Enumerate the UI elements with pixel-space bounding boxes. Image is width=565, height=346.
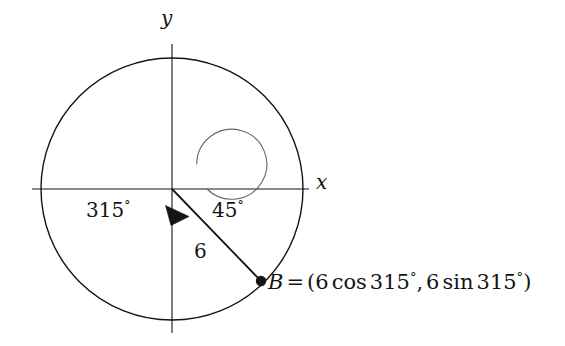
radius-length-label: 6 — [194, 241, 207, 261]
equals-sign: = — [283, 270, 307, 294]
y-coefficient: 6 — [423, 270, 439, 294]
degree-symbol-icon: ° — [237, 198, 243, 213]
y-angle-value: 315 — [474, 270, 517, 294]
arc-arrowhead — [166, 206, 190, 226]
degree-symbol-icon: ° — [124, 198, 130, 213]
close-paren: ) — [523, 270, 531, 294]
x-angle-value: 315 — [367, 270, 410, 294]
sin-function: sin — [439, 270, 473, 294]
angle-45-value: 45 — [212, 198, 237, 222]
x-coefficient: 6 — [315, 270, 328, 294]
angle-315-value: 315 — [86, 198, 124, 222]
x-axis-label: x — [316, 172, 327, 192]
math-figure: y x 315° 45° 6 B=(6cos315°,6sin315°) — [0, 0, 565, 346]
point-b-name: B — [268, 270, 283, 294]
point-b-label: B=(6cos315°,6sin315°) — [268, 271, 531, 293]
point-b-marker — [256, 276, 266, 286]
cos-function: cos — [329, 270, 367, 294]
angle-45-label: 45° — [212, 200, 244, 220]
angle-315-label: 315° — [86, 200, 130, 220]
y-axis-label: y — [161, 8, 172, 28]
